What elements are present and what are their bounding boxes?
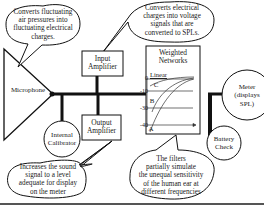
curve-label-c: C	[152, 81, 160, 89]
callout-line: Converts fluctuating	[8, 8, 78, 16]
label-line: (displays	[226, 91, 264, 99]
y-tick-minus40: -40	[134, 121, 148, 129]
label-line: Amplifier	[82, 127, 121, 135]
callout-line: signal to a level	[10, 171, 86, 179]
y-tick-minus10: -10	[134, 87, 148, 95]
callout-line: of the human ear at	[128, 180, 214, 188]
y-tick-0: 0	[138, 74, 148, 82]
label-line: Amplifier	[82, 63, 123, 71]
output-amplifier-callout-text: Increases the sound signal to a level ad…	[10, 163, 86, 196]
label-line: Networks	[146, 57, 200, 65]
callout-line: Increases the sound	[10, 163, 86, 171]
callout-line: signals that are	[130, 20, 214, 28]
callout-line: partially simulate	[128, 163, 214, 171]
label-line: Calibrator	[44, 139, 80, 147]
callout-line: air pressures into	[8, 16, 78, 24]
callout-line: converted to SPLs.	[130, 29, 214, 37]
callout-line: different frequencies	[128, 188, 214, 196]
callout-line: Converts electrical	[130, 4, 214, 12]
curve-label-b: B	[148, 97, 156, 105]
callout-line: adequate for display	[10, 179, 86, 187]
weighted-networks-callout-text: The filters partially simulate the unequ…	[128, 155, 214, 196]
callout-line: fluctuating electrical	[8, 24, 78, 32]
battery-check-label: Battery Check	[207, 135, 241, 152]
label-line: Battery	[207, 135, 241, 143]
internal-calibrator-label: Internal Calibrator	[44, 131, 80, 148]
callout-line: The filters	[128, 155, 214, 163]
label-line: Check	[207, 143, 241, 151]
label-line: Meter	[226, 83, 264, 91]
curve-label-a: A	[147, 125, 155, 133]
microphone-shape	[4, 49, 53, 140]
callout-line: on the meter	[10, 188, 86, 196]
microphone-callout-text: Converts fluctuating air pressures into …	[8, 8, 78, 41]
y-tick-minus30: -30	[134, 104, 148, 112]
weighted-networks-label: Weighted Networks	[146, 49, 200, 66]
label-line: SPL)	[226, 100, 264, 108]
callout-line: charges.	[8, 33, 78, 41]
microphone-label: Microphone	[6, 86, 50, 94]
callout-line: charges into voltage	[130, 12, 214, 20]
output-amplifier-label: Output Amplifier	[82, 119, 121, 136]
meter-label: Meter (displays SPL)	[226, 83, 264, 108]
input-amplifier-label: Input Amplifier	[82, 55, 123, 72]
curve-label-linear: Linear	[150, 71, 174, 79]
label-line: Internal	[44, 131, 80, 139]
callout-line: the unequal sensitivity	[128, 171, 214, 179]
input-amplifier-callout-text: Converts electrical charges into voltage…	[130, 4, 214, 37]
